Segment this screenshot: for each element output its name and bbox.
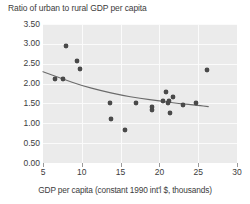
y-axis: 0.000.501.001.502.002.503.003.50 [0,24,40,163]
y-tick-label: 2.00 [2,79,40,88]
data-point [194,101,198,105]
data-point [168,111,172,115]
plot-area [43,24,237,163]
y-tick-label: 0.50 [2,139,40,148]
x-tick-label: 5 [41,168,46,177]
trend-line [43,24,237,163]
x-axis-title: GDP per capita (constant 1990 int'l $, t… [0,185,250,195]
data-point [108,101,112,105]
x-tick-label: 15 [116,168,125,177]
y-tick-label: 3.50 [2,20,40,29]
data-point [64,44,68,48]
data-point [161,99,165,103]
data-point [171,95,175,99]
x-axis: 51015202530 [43,163,237,181]
x-tick-label: 25 [193,168,202,177]
y-tick-label: 0.00 [2,159,40,168]
chart-title: Ratio of urban to rural GDP per capita [8,3,147,13]
y-tick-label: 3.00 [2,39,40,48]
data-point [75,59,79,63]
x-tick-label: 10 [77,168,86,177]
data-point [109,117,113,121]
data-point [164,90,168,94]
chart-container: Ratio of urban to rural GDP per capita 0… [0,0,250,204]
x-tick-label: 20 [155,168,164,177]
x-tick-label: 30 [232,168,241,177]
y-tick-label: 1.00 [2,119,40,128]
y-tick-label: 2.50 [2,59,40,68]
y-tick-label: 1.50 [2,99,40,108]
